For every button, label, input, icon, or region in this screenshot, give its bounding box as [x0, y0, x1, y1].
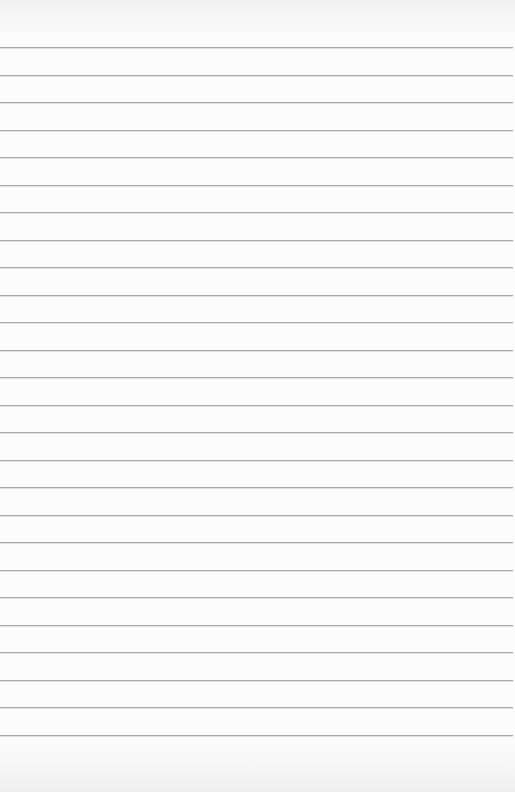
ruled-line: [0, 377, 513, 378]
ruled-lines: [0, 0, 515, 792]
ruled-line: [0, 47, 513, 48]
ruled-line: [0, 75, 513, 76]
ruled-line: [0, 707, 513, 708]
ruled-line: [0, 267, 513, 268]
ruled-line: [0, 322, 513, 323]
ruled-line: [0, 432, 513, 433]
ruled-line: [0, 680, 513, 681]
ruled-line: [0, 460, 513, 461]
ruled-line: [0, 185, 513, 186]
ruled-line: [0, 487, 513, 488]
ruled-line: [0, 130, 513, 131]
ruled-line: [0, 735, 513, 736]
ruled-line: [0, 102, 513, 103]
ruled-line: [0, 350, 513, 351]
ruled-line: [0, 597, 513, 598]
ruled-line: [0, 157, 513, 158]
ruled-line: [0, 652, 513, 653]
lined-paper-page: [0, 0, 515, 792]
ruled-line: [0, 542, 513, 543]
ruled-line: [0, 570, 513, 571]
ruled-line: [0, 405, 513, 406]
ruled-line: [0, 515, 513, 516]
ruled-line: [0, 625, 513, 626]
ruled-line: [0, 212, 513, 213]
ruled-line: [0, 295, 513, 296]
ruled-line: [0, 240, 513, 241]
